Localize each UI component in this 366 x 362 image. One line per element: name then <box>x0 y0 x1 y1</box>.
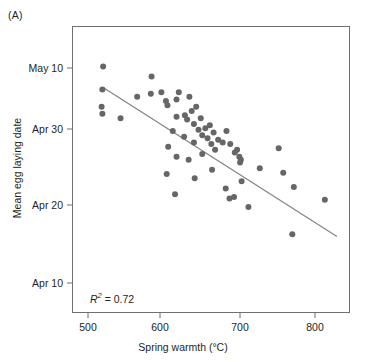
x-axis-title: Spring warmth (°C) <box>0 341 366 353</box>
r-squared-value: = 0.72 <box>102 293 134 305</box>
r-squared-annotation: R2 = 0.72 <box>90 291 134 305</box>
y-tick-label: May 10 <box>29 62 63 74</box>
plot-frame <box>72 26 350 313</box>
r-squared-symbol: R <box>90 293 98 305</box>
x-tick-label: 500 <box>79 321 97 333</box>
scatter-plot-figure: (A) May 10Apr 30Apr 20Apr 10 50060070080… <box>0 0 366 362</box>
y-tick-label: Apr 30 <box>32 123 63 135</box>
y-axis-title: Mean egg laying date <box>11 88 23 248</box>
x-tick-label: 800 <box>306 321 324 333</box>
y-tick-label: Apr 10 <box>32 277 63 289</box>
panel-label: (A) <box>8 9 23 21</box>
x-tick-label: 700 <box>231 321 249 333</box>
y-tick-label: Apr 20 <box>32 199 63 211</box>
x-tick-label: 600 <box>151 321 169 333</box>
